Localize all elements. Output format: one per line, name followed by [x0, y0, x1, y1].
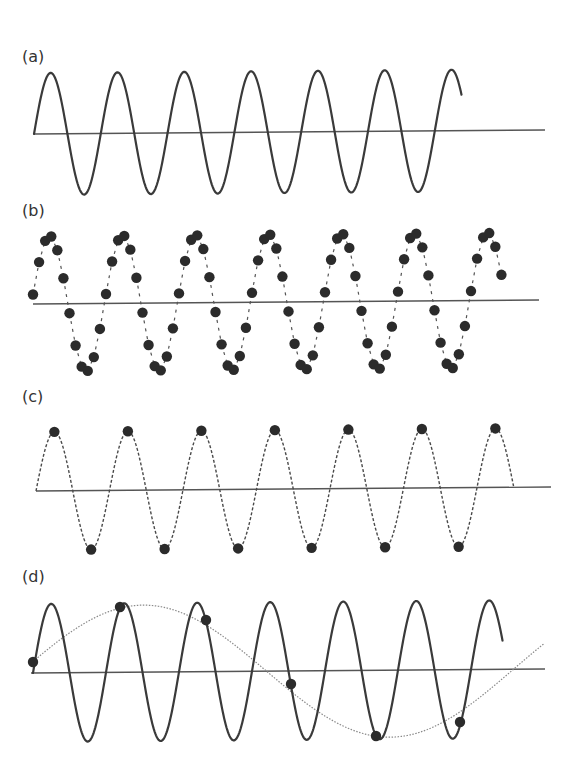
aliasing-figure: (a) (b) (c) (d) [0, 0, 573, 772]
sample-point [362, 338, 372, 348]
connector-line [392, 292, 398, 327]
connector-line [246, 293, 252, 328]
sample-point [314, 322, 324, 332]
sample-point [52, 245, 62, 255]
sample-point [399, 254, 409, 264]
sample-point [123, 426, 133, 436]
connector-line [173, 293, 179, 328]
connector-line [428, 275, 434, 310]
sample-point [119, 231, 129, 241]
sample-point [265, 230, 275, 240]
sample-point [58, 273, 68, 283]
sample-point [338, 229, 348, 239]
sample-point [455, 717, 465, 727]
sample-point [466, 286, 476, 296]
sample-point [86, 544, 96, 554]
panel-d: (d) [22, 567, 545, 742]
sample-point [137, 307, 147, 317]
sample-point [270, 425, 280, 435]
sample-point [429, 305, 439, 315]
panel-a-axis [34, 130, 545, 134]
sample-point [448, 363, 458, 373]
sample-point [241, 323, 251, 333]
panel-b-axis [33, 300, 539, 304]
sample-point [49, 427, 59, 437]
sample-point [156, 365, 166, 375]
connector-line [319, 292, 325, 327]
sample-point [210, 307, 220, 317]
sample-point [253, 255, 263, 265]
sample-point [460, 321, 470, 331]
sample-point [490, 423, 500, 433]
sample-point [380, 542, 390, 552]
sample-point [271, 243, 281, 253]
sample-point [168, 323, 178, 333]
sample-point [143, 340, 153, 350]
sample-point [34, 257, 44, 267]
sample-point [95, 324, 105, 334]
panel-a-label: (a) [22, 47, 44, 66]
connector-line [100, 294, 106, 329]
sample-point [343, 424, 353, 434]
sample-point [28, 657, 38, 667]
sample-point [484, 228, 494, 238]
sample-point [393, 286, 403, 296]
sample-point [308, 350, 318, 360]
sample-point [70, 340, 80, 350]
sample-point [201, 615, 211, 625]
connector-line [136, 278, 142, 313]
connector-line [63, 278, 69, 313]
sample-point [180, 256, 190, 266]
sample-point [216, 339, 226, 349]
sample-point [356, 306, 366, 316]
sample-point [283, 306, 293, 316]
sample-point [115, 602, 125, 612]
sample-point [64, 308, 74, 318]
sample-point [350, 271, 360, 281]
sample-point [89, 352, 99, 362]
connector-line [355, 276, 361, 311]
sample-point [83, 366, 93, 376]
sample-point [490, 242, 500, 252]
sample-point [387, 321, 397, 331]
connector-line [282, 277, 288, 312]
sample-point [320, 287, 330, 297]
sample-point [162, 351, 172, 361]
sample-point [101, 289, 111, 299]
sample-point [453, 542, 463, 552]
panel-d-label: (d) [22, 567, 45, 586]
sample-point [247, 288, 257, 298]
sample-point [326, 255, 336, 265]
panel-b: (b) [22, 201, 539, 376]
sample-point [192, 230, 202, 240]
sample-point [472, 253, 482, 263]
panel-a: (a) [22, 47, 545, 195]
sample-point [28, 289, 38, 299]
sample-point [371, 731, 381, 741]
sample-point [435, 337, 445, 347]
panel-b-label: (b) [22, 201, 45, 220]
connector-line [209, 277, 215, 312]
sample-point [198, 244, 208, 254]
sample-point [302, 364, 312, 374]
sample-point [107, 256, 117, 266]
sample-point [381, 350, 391, 360]
connector-line [465, 291, 471, 326]
sample-point [417, 242, 427, 252]
sample-point [131, 273, 141, 283]
sample-point [204, 272, 214, 282]
sample-point [286, 679, 296, 689]
sample-point [454, 349, 464, 359]
sample-point [46, 231, 56, 241]
sample-point [196, 426, 206, 436]
sample-point [235, 351, 245, 361]
sample-point [344, 243, 354, 253]
panel-c-label: (c) [22, 387, 43, 406]
sample-point [125, 244, 135, 254]
sample-point [289, 339, 299, 349]
sample-point [174, 288, 184, 298]
sample-point [417, 424, 427, 434]
sample-point [233, 543, 243, 553]
sample-point [423, 270, 433, 280]
panel-c: (c) [22, 387, 551, 555]
